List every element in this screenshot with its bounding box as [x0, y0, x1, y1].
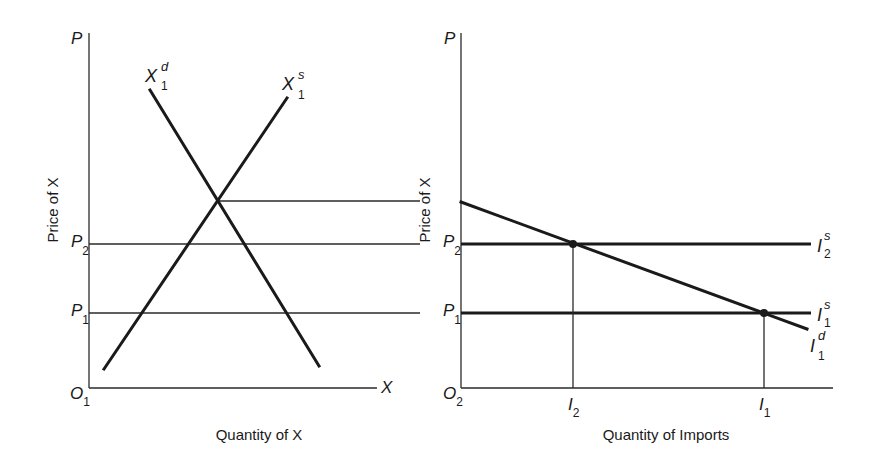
- supply-curve-x1s-label: Xs1: [281, 67, 305, 102]
- import-demand-i1d: [461, 202, 807, 329]
- left-y-axis-title: Price of X: [44, 177, 61, 242]
- right-y-axis-end-label: P: [444, 29, 456, 48]
- import-supply-i1s-label: Is1: [817, 297, 831, 330]
- right-x-axis-title: Quantity of Imports: [603, 426, 730, 443]
- right-p1-label: P1: [443, 301, 461, 327]
- i2-tick-label: I2: [568, 395, 580, 420]
- right-origin-label: O2: [443, 384, 463, 409]
- left-p2-label: P2: [71, 232, 89, 258]
- left-y-axis-end-label: P: [71, 29, 83, 48]
- left-origin-label: O1: [70, 384, 90, 409]
- left-x-axis-title: Quantity of X: [216, 426, 303, 443]
- equilibrium-point-i2: [569, 240, 577, 248]
- import-demand-diagram: P X O1 P2 P1 Xd1 Xs1 Pric: [0, 0, 873, 470]
- demand-curve-x1d-label: Xd1: [144, 59, 169, 93]
- right-panel: P O2 P2 P1 Is2 Is1 Id1: [416, 29, 833, 443]
- demand-curve-x1d: [150, 90, 319, 366]
- supply-curve-x1s: [104, 98, 287, 369]
- left-panel: P X O1 P2 P1 Xd1 Xs1 Pric: [44, 29, 420, 443]
- import-demand-i1d-label: Id1: [810, 328, 826, 363]
- equilibrium-point-i1: [760, 309, 768, 317]
- right-y-axis-title: Price of X: [416, 177, 433, 242]
- i1-tick-label: I1: [759, 395, 771, 420]
- import-supply-i2s-label: Is2: [817, 228, 831, 261]
- right-p2-label: P2: [443, 232, 461, 258]
- left-p1-label: P1: [71, 301, 89, 327]
- left-x-axis-end-label: X: [380, 378, 393, 397]
